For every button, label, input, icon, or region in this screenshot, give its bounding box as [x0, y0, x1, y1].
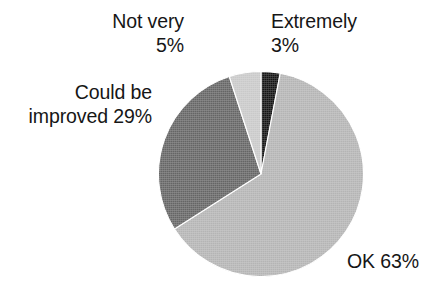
- pie-chart-figure: Not very 5% Extremely 3% Could be improv…: [0, 0, 445, 298]
- slice-label-could-be-improved: Could be improved 29%: [0, 80, 152, 128]
- slice-label-extremely: Extremely 3%: [271, 9, 431, 57]
- slice-label-not-very: Not very 5%: [34, 9, 184, 57]
- pie-chart: [158, 71, 364, 277]
- slice-label-ok: OK 63%: [347, 249, 445, 273]
- pie-slices: [158, 71, 364, 277]
